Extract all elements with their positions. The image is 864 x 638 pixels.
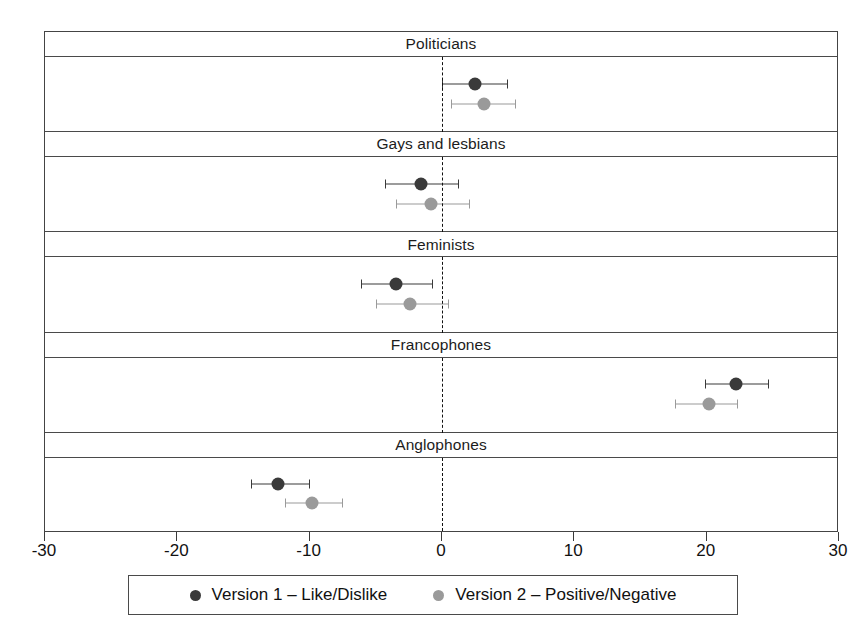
panel-title-strip: Gays and lesbians <box>45 132 837 157</box>
zero-reference-line <box>442 57 443 132</box>
panel-title-strip: Anglophones <box>45 433 837 458</box>
ci-cap-right <box>768 380 769 389</box>
estimate-dot-version-1 <box>729 378 742 391</box>
panel-title: Politicians <box>406 36 477 52</box>
panel-title: Anglophones <box>395 437 487 453</box>
zero-reference-line <box>442 257 443 332</box>
legend-item-version-1: Version 1 – Like/Dislike <box>190 585 388 605</box>
estimate-dot-version-2 <box>703 398 716 411</box>
ci-cap-left <box>285 499 286 508</box>
estimate-dot-version-2 <box>478 97 491 110</box>
panel-francophones: Francophones <box>45 333 837 433</box>
panel-title: Feminists <box>407 237 474 253</box>
panel-plot-area <box>45 358 837 433</box>
panel-title: Francophones <box>391 337 491 353</box>
panel-plot-area <box>45 257 837 332</box>
panel-gays-and-lesbians: Gays and lesbians <box>45 132 837 232</box>
ci-cap-left <box>705 380 706 389</box>
x-axis-tick-label: 30 <box>829 541 848 561</box>
zero-reference-line <box>442 358 443 433</box>
panel-plot-area <box>45 157 837 232</box>
ci-cap-right <box>458 179 459 188</box>
ci-cap-right <box>515 99 516 108</box>
ci-cap-right <box>737 400 738 409</box>
x-axis-tick <box>176 532 177 541</box>
x-axis-tick <box>44 532 45 541</box>
panel-title: Gays and lesbians <box>376 136 505 152</box>
x-axis-tick <box>573 532 574 541</box>
estimate-dot-version-2 <box>306 497 319 510</box>
estimate-dot-version-1 <box>271 477 284 490</box>
estimate-dot-version-2 <box>425 197 438 210</box>
panel-title-strip: Francophones <box>45 333 837 358</box>
coefficient-plot: PoliticiansGays and lesbiansFeministsFra… <box>0 0 864 638</box>
ci-cap-right <box>448 300 449 309</box>
estimate-dot-version-2 <box>404 298 417 311</box>
estimate-dot-version-1 <box>389 278 402 291</box>
ci-cap-right <box>432 280 433 289</box>
legend-label-version-1: Version 1 – Like/Dislike <box>212 585 388 605</box>
ci-cap-right <box>469 199 470 208</box>
panel-plot-area <box>45 57 837 132</box>
x-axis-tick-label: -20 <box>164 541 189 561</box>
x-axis-tick <box>441 532 442 541</box>
legend-item-version-2: Version 2 – Positive/Negative <box>433 585 676 605</box>
ci-cap-left <box>376 300 377 309</box>
legend-marker-version-1-dot-icon <box>190 590 201 601</box>
x-axis-tick <box>309 532 310 541</box>
panel-title-strip: Feminists <box>45 232 837 257</box>
ci-cap-right <box>342 499 343 508</box>
ci-cap-left <box>675 400 676 409</box>
panel-politicians: Politicians <box>45 32 837 132</box>
ci-cap-left <box>385 179 386 188</box>
x-axis-tick-label: 0 <box>436 541 445 561</box>
ci-cap-left <box>451 99 452 108</box>
x-axis-tick-label: 10 <box>564 541 583 561</box>
ci-cap-right <box>507 79 508 88</box>
chart-legend: Version 1 – Like/Dislike Version 2 – Pos… <box>128 575 738 615</box>
x-axis-tick <box>838 532 839 541</box>
estimate-dot-version-1 <box>414 177 427 190</box>
zero-reference-line <box>442 458 443 531</box>
ci-cap-left <box>251 479 252 488</box>
legend-label-version-2: Version 2 – Positive/Negative <box>455 585 676 605</box>
panel-title-strip: Politicians <box>45 32 837 57</box>
x-axis-tick-label: -10 <box>296 541 321 561</box>
legend-marker-version-2-dot-icon <box>433 590 444 601</box>
zero-reference-line <box>442 157 443 232</box>
ci-cap-left <box>396 199 397 208</box>
panel-plot-area <box>45 458 837 531</box>
x-axis-tick-label: -30 <box>32 541 57 561</box>
x-axis-tick <box>706 532 707 541</box>
ci-cap-right <box>309 479 310 488</box>
x-axis-tick-label: 20 <box>696 541 715 561</box>
panel-anglophones: Anglophones <box>45 433 837 531</box>
ci-cap-left <box>361 280 362 289</box>
estimate-dot-version-1 <box>469 77 482 90</box>
panel-feminists: Feminists <box>45 232 837 332</box>
plot-frame: PoliticiansGays and lesbiansFeministsFra… <box>44 31 838 532</box>
